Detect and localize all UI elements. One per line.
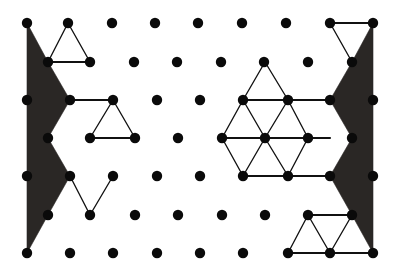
lattice-dot-r2-c6: [283, 95, 293, 105]
lattice-dot-r3-c3: [173, 133, 183, 143]
lattice-dot-r1-c1: [85, 57, 95, 67]
lattice-dot-r2-c5: [238, 95, 248, 105]
lattice-dot-r0-c2: [107, 18, 117, 28]
lattice-dot-r2-c1: [65, 95, 75, 105]
lattice-dot-r4-c6: [283, 171, 293, 181]
lattice-dot-r4-c2: [108, 171, 118, 181]
lattice-dot-r6-c5: [238, 248, 248, 258]
lattice-dot-r3-c4: [217, 133, 227, 143]
lattice-dot-r4-c7: [325, 171, 335, 181]
lattice-dot-r1-c5: [259, 57, 269, 67]
lattice-dot-r4-c5: [238, 171, 248, 181]
lattice-dot-r5-c0: [43, 210, 53, 220]
lattice-dot-r6-c1: [65, 248, 75, 258]
lattice-dot-r0-c5: [237, 18, 247, 28]
lattice-dot-r0-c4: [193, 18, 203, 28]
lattice-figure: [0, 0, 405, 275]
lattice-dot-r0-c7: [325, 18, 335, 28]
lattice-dot-r6-c2: [108, 248, 118, 258]
lattice-dot-r2-c4: [195, 95, 205, 105]
lattice-dot-r5-c5: [260, 210, 270, 220]
lattice-dot-r1-c7: [347, 57, 357, 67]
lattice-dot-r4-c1: [65, 171, 75, 181]
lattice-dot-r3-c6: [303, 133, 313, 143]
lattice-dot-r6-c7: [325, 248, 335, 258]
lattice-dot-r3-c0: [43, 133, 53, 143]
lattice-dot-r5-c1: [85, 210, 95, 220]
lattice-dot-r6-c8: [368, 248, 378, 258]
lattice-dot-r4-c3: [152, 171, 162, 181]
lattice-dot-r1-c6: [303, 57, 313, 67]
figure-background: [0, 0, 405, 275]
lattice-dot-r4-c4: [195, 171, 205, 181]
lattice-canvas: [0, 0, 405, 275]
lattice-dot-r2-c8: [368, 95, 378, 105]
lattice-dot-r3-c2: [130, 133, 140, 143]
lattice-dot-r1-c3: [172, 57, 182, 67]
lattice-dot-r0-c6: [281, 18, 291, 28]
lattice-dot-r1-c4: [216, 57, 226, 67]
lattice-dot-r1-c0: [43, 57, 53, 67]
lattice-dot-r5-c3: [173, 210, 183, 220]
lattice-dot-r0-c8: [368, 18, 378, 28]
lattice-dot-r6-c0: [22, 248, 32, 258]
lattice-dot-r4-c0: [22, 171, 32, 181]
lattice-dot-r0-c3: [150, 18, 160, 28]
lattice-dot-r1-c2: [129, 57, 139, 67]
lattice-dot-r5-c4: [217, 210, 227, 220]
lattice-dot-r6-c4: [195, 248, 205, 258]
lattice-dot-r5-c2: [130, 210, 140, 220]
lattice-dot-r2-c3: [152, 95, 162, 105]
lattice-dot-r3-c7: [347, 133, 357, 143]
lattice-dot-r2-c2: [108, 95, 118, 105]
lattice-dot-r4-c8: [368, 171, 378, 181]
lattice-dot-r5-c6: [303, 210, 313, 220]
lattice-dot-r5-c7: [347, 210, 357, 220]
lattice-dot-r2-c0: [22, 95, 32, 105]
lattice-dot-r2-c7: [325, 95, 335, 105]
lattice-dot-r0-c1: [63, 18, 73, 28]
lattice-dot-r6-c3: [152, 248, 162, 258]
lattice-dot-r6-c6: [283, 248, 293, 258]
lattice-dot-r0-c0: [22, 18, 32, 28]
lattice-dot-r3-c1: [85, 133, 95, 143]
lattice-dot-r3-c5: [260, 133, 270, 143]
